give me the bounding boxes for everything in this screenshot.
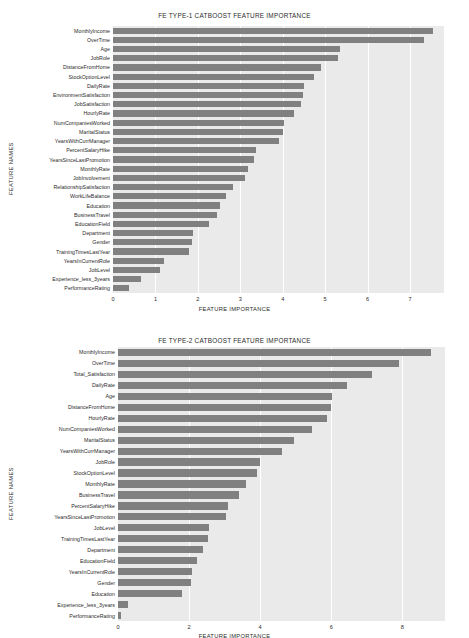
y-tick-label: Total_Satisfaction	[73, 371, 115, 377]
y-tick-label: JobRole	[91, 55, 110, 61]
y-tick-label: YearsSinceLastPromotion	[49, 157, 110, 163]
bar-row	[113, 221, 444, 227]
y-tick-label: StockOptionLevel	[68, 74, 110, 80]
bar	[113, 221, 209, 227]
bar	[118, 382, 347, 389]
bar-row	[113, 83, 444, 89]
bar	[118, 513, 226, 520]
bar-row	[113, 138, 444, 144]
bar	[118, 491, 239, 498]
bar	[118, 579, 191, 586]
bar-row	[113, 276, 444, 282]
bar-row	[118, 590, 445, 597]
bar	[113, 184, 233, 190]
y-tick-label: NumCompaniesWorked	[59, 426, 115, 432]
bar-row	[113, 175, 444, 181]
chart-title: FE TYPE-1 CATBOOST FEATURE IMPORTANCE	[0, 12, 469, 19]
y-tick-label: Gender	[92, 239, 110, 245]
bar	[113, 248, 189, 254]
x-tick-label: 5	[324, 296, 327, 302]
bar	[118, 349, 431, 356]
bar-row	[113, 248, 444, 254]
x-tick-label: 0	[111, 296, 114, 302]
bar	[118, 393, 332, 400]
bar	[118, 371, 372, 378]
y-tick-label: DailyRate	[87, 83, 110, 89]
y-tick-label: MaritalStatus	[84, 437, 115, 443]
bar-row	[118, 612, 445, 619]
bar-row	[113, 110, 444, 116]
y-tick-label: HourlyRate	[84, 110, 111, 116]
bar	[118, 535, 208, 542]
bar	[113, 129, 283, 135]
bar-row	[118, 491, 445, 498]
y-tick-label: DailyRate	[92, 382, 115, 388]
y-tick-labels: MonthlyIncomeOverTimeAgeJobRoleDistanceF…	[8, 26, 110, 293]
bar-row	[113, 101, 444, 107]
y-tick-label: JobSatisfaction	[74, 101, 110, 107]
bar	[113, 230, 193, 236]
y-tick-label: Gender	[97, 580, 115, 586]
y-tick-label: YearsWithCurrManager	[60, 448, 115, 454]
y-tick-label: Experience_less_3years	[57, 602, 115, 608]
bar-row	[113, 212, 444, 218]
y-tick-label: BusinessTravel	[74, 212, 110, 218]
bar	[113, 37, 424, 43]
bar-row	[113, 46, 444, 52]
bar-row	[118, 404, 445, 411]
y-tick-label: Experience_less_3years	[52, 276, 110, 282]
bar	[113, 276, 141, 282]
plot-area	[113, 26, 444, 293]
bar-row	[118, 415, 445, 422]
bar-row	[118, 579, 445, 586]
x-tick-label: 4	[259, 624, 262, 630]
bar-row	[118, 393, 445, 400]
bar-row	[113, 64, 444, 70]
y-tick-label: JobLevel	[94, 525, 115, 531]
bar-row	[118, 382, 445, 389]
bar-row	[118, 480, 445, 487]
y-tick-label: TrainingTimesLastYear	[56, 249, 110, 255]
bar	[118, 404, 331, 411]
bar	[118, 426, 312, 433]
x-tick-label: 3	[239, 296, 242, 302]
y-tick-label: RelationshipSatisfaction	[53, 184, 110, 190]
y-tick-label: PerformanceRating	[69, 613, 115, 619]
bar-row	[113, 239, 444, 245]
bar	[113, 55, 338, 61]
bar	[118, 469, 257, 476]
bar-row	[118, 349, 445, 356]
bar	[118, 437, 294, 444]
bar-row	[118, 469, 445, 476]
y-tick-label: YearsSinceLastPromotion	[54, 514, 115, 520]
bar	[113, 202, 220, 208]
bar-row	[113, 37, 444, 43]
bar	[113, 258, 164, 264]
x-tick-label: 6	[330, 624, 333, 630]
y-tick-label: PercentSalaryHike	[71, 503, 115, 509]
bar-row	[113, 28, 444, 34]
x-tick-label: 2	[188, 624, 191, 630]
bar-row	[118, 437, 445, 444]
y-tick-label: Age	[106, 393, 115, 399]
bar-row	[113, 74, 444, 80]
x-tick-label: 7	[408, 296, 411, 302]
y-tick-label: Department	[82, 230, 110, 236]
chart-fe-type-1: FE TYPE-1 CATBOOST FEATURE IMPORTANCE FE…	[0, 0, 469, 320]
y-tick-label: JobRole	[96, 459, 115, 465]
y-tick-label: EducationField	[80, 558, 115, 564]
bar	[118, 448, 282, 455]
bar	[118, 568, 192, 575]
x-tick-label: 4	[281, 296, 284, 302]
bar	[113, 212, 217, 218]
bar-row	[118, 371, 445, 378]
y-tick-label: MonthlyRate	[85, 481, 115, 487]
y-tick-label: Age	[101, 46, 110, 52]
bar-row	[118, 568, 445, 575]
bar	[118, 601, 128, 608]
bar	[113, 46, 340, 52]
bar	[113, 193, 226, 199]
bar	[113, 110, 294, 116]
bar	[113, 120, 284, 126]
bar-row	[113, 267, 444, 273]
